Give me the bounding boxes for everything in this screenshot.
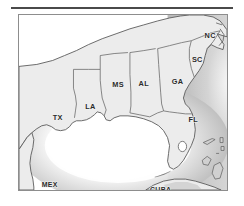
label-ga: GA xyxy=(172,77,184,86)
top-horizontal-rule xyxy=(11,7,233,9)
lake-okeechobee xyxy=(178,141,186,151)
label-sc: SC xyxy=(192,55,203,64)
label-cuba: CUBA xyxy=(150,186,171,190)
label-al: AL xyxy=(139,79,150,88)
map-figure: NC SC GA AL MS LA TX FL BAH MEX CUBA xyxy=(0,0,244,206)
label-la: LA xyxy=(85,102,96,111)
label-nc: NC xyxy=(205,31,217,40)
map-frame[interactable]: NC SC GA AL MS LA TX FL BAH MEX CUBA xyxy=(18,14,228,191)
label-mex: MEX xyxy=(42,181,58,188)
map-canvas[interactable]: NC SC GA AL MS LA TX FL BAH MEX CUBA xyxy=(19,15,227,190)
label-fl: FL xyxy=(189,115,199,124)
label-tx: TX xyxy=(53,113,63,122)
label-ms: MS xyxy=(112,80,124,89)
